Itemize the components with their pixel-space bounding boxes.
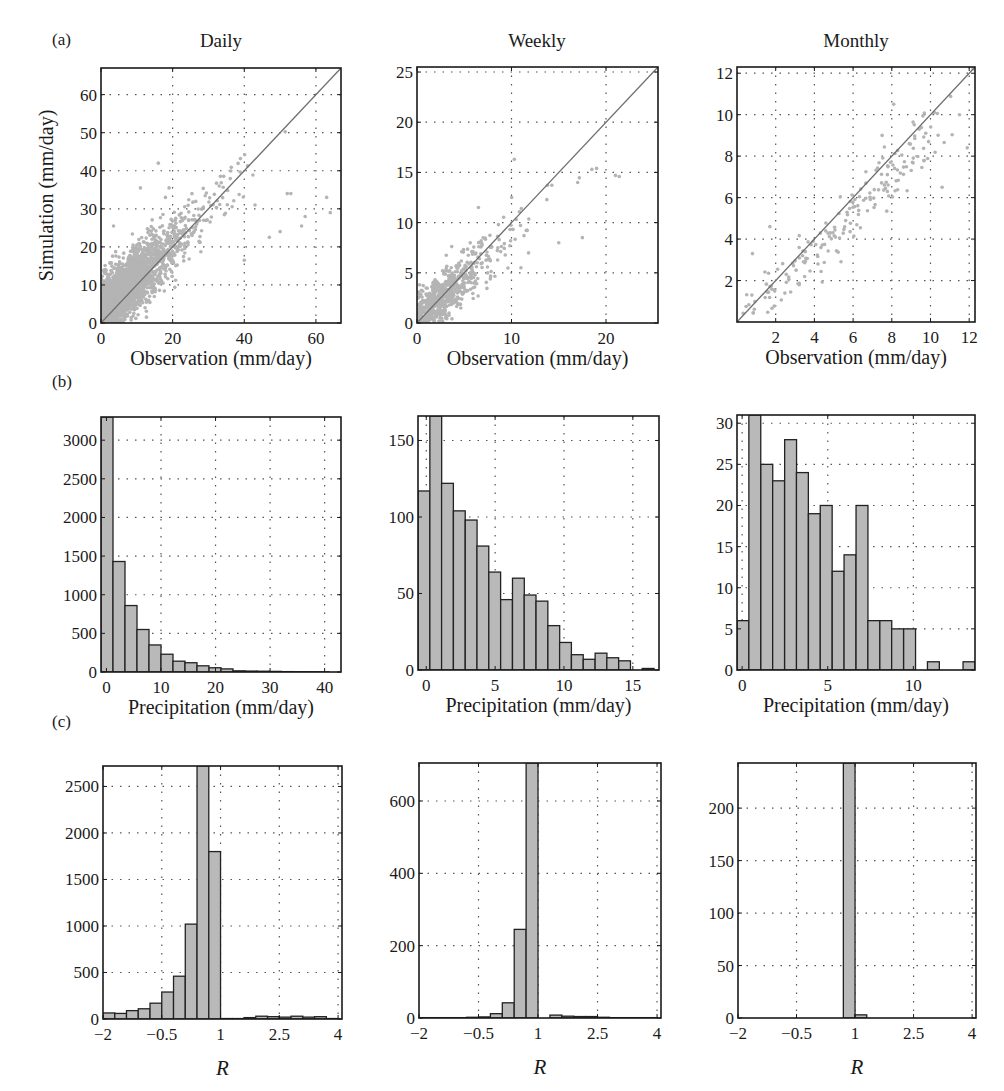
- x-axis-label: R: [533, 1055, 547, 1079]
- histogram-bar: [209, 852, 221, 1019]
- plot-content: [418, 416, 654, 670]
- x-tick-label: 10: [922, 328, 939, 347]
- x-tick-label: 2.5: [903, 1024, 924, 1043]
- x-tick-label: 40: [236, 329, 253, 348]
- plot-content: [103, 766, 338, 1019]
- y-tick-label: 15: [396, 163, 413, 182]
- y-tick-label: 1500: [63, 547, 97, 566]
- grid-lines: [103, 766, 342, 1019]
- y-tick-label: 25: [716, 455, 733, 474]
- histogram-bar: [125, 606, 137, 672]
- histogram-bar: [749, 415, 761, 670]
- histogram-bar: [927, 662, 939, 670]
- y-tick-label: 3000: [63, 431, 97, 450]
- histogram-bar: [904, 629, 916, 670]
- histogram-bar: [173, 661, 185, 672]
- y-tick-label: 20: [396, 113, 413, 132]
- y-tick-label: 15: [716, 538, 733, 557]
- histogram-bar: [832, 571, 844, 670]
- subplot-c-weekly: −2−0.512.540200400600R: [390, 763, 662, 1079]
- histogram-bar: [761, 464, 773, 670]
- one-to-one-line: [417, 67, 658, 323]
- x-tick-label: 20: [207, 678, 224, 697]
- histogram-bar: [162, 992, 174, 1019]
- axes-frame: [103, 766, 342, 1019]
- x-tick-label: −0.5: [781, 1024, 812, 1043]
- x-tick-label: 10: [153, 678, 170, 697]
- histogram-bar: [418, 491, 430, 670]
- y-tick-label: 0: [406, 661, 415, 680]
- histogram-bar: [571, 655, 583, 670]
- histogram-bar: [185, 663, 197, 672]
- y-tick-label: 200: [390, 937, 416, 956]
- y-tick-label: 60: [80, 86, 97, 105]
- x-tick-label: 4: [968, 1024, 977, 1043]
- x-axis-label: Precipitation (mm/day): [445, 694, 631, 717]
- x-tick-label: 2.5: [269, 1025, 290, 1044]
- subplot-c-daily: −2−0.512.5405001000150020002500R: [65, 766, 343, 1080]
- plot-content: [419, 763, 657, 1018]
- x-tick-label: 1: [534, 1024, 543, 1043]
- y-tick-label: 0: [91, 1010, 100, 1029]
- y-tick-label: 2500: [63, 470, 97, 489]
- y-tick-label: 10: [80, 276, 97, 295]
- histogram-bar: [808, 514, 820, 670]
- histogram-bar: [127, 1011, 139, 1019]
- x-tick-label: 60: [307, 329, 324, 348]
- x-tick-label: 5: [491, 676, 500, 695]
- histogram-bar: [185, 924, 197, 1019]
- grid-lines: [419, 763, 661, 1018]
- y-tick-label: 400: [390, 864, 416, 883]
- y-tick-label: 6: [725, 189, 734, 208]
- histogram-bar: [548, 626, 560, 670]
- histogram-bar: [820, 505, 832, 670]
- histogram-bar: [477, 546, 489, 670]
- y-tick-label: 10: [716, 106, 733, 125]
- plot-content: [99, 68, 341, 325]
- y-tick-label: 50: [397, 584, 414, 603]
- y-tick-label: 0: [725, 661, 734, 680]
- x-tick-label: 1: [851, 1024, 860, 1043]
- subplot-c-monthly: −2−0.512.54050100150200R: [709, 763, 977, 1079]
- y-tick-label: 200: [709, 799, 735, 818]
- plot-content: [737, 415, 975, 670]
- x-tick-label: 0: [422, 676, 431, 695]
- plots-canvas: 02040600102030405060Observation (mm/day)…: [0, 0, 1004, 1091]
- histogram-bar: [138, 1009, 150, 1019]
- y-tick-label: 50: [717, 957, 734, 976]
- y-axis-label: Simulation (mm/day): [35, 110, 58, 282]
- x-tick-label: 1: [216, 1025, 225, 1044]
- histogram-bar: [442, 483, 454, 670]
- y-tick-label: 10: [396, 214, 413, 233]
- x-tick-label: 0: [738, 676, 747, 695]
- y-tick-label: 30: [80, 200, 97, 219]
- histogram-bar: [843, 763, 855, 1018]
- histogram-bar: [785, 440, 797, 670]
- histogram-bar: [524, 595, 536, 670]
- x-tick-label: 10: [503, 329, 520, 348]
- plot-content: [415, 67, 658, 325]
- histogram-bar: [465, 520, 477, 670]
- x-axis-label: Observation (mm/day): [447, 347, 629, 370]
- y-tick-label: 5: [725, 620, 734, 639]
- histogram-bar: [526, 763, 538, 1018]
- histogram-bar: [115, 1013, 127, 1019]
- plot-content: [843, 763, 866, 1018]
- axes-frame: [738, 763, 976, 1018]
- x-tick-label: 40: [316, 678, 333, 697]
- x-tick-label: 8: [888, 328, 897, 347]
- x-tick-label: 10: [905, 676, 922, 695]
- y-tick-label: 5: [405, 264, 414, 283]
- subplot-b-weekly: 051015050100150Precipitation (mm/day): [389, 416, 660, 717]
- histogram-bar: [773, 481, 785, 670]
- plot-content: [737, 67, 975, 322]
- y-tick-label: 0: [89, 314, 98, 333]
- x-axis-label: Observation (mm/day): [130, 347, 312, 370]
- histogram-bar: [502, 1003, 514, 1018]
- x-tick-label: 10: [555, 676, 572, 695]
- y-tick-label: 0: [407, 1009, 416, 1028]
- x-tick-label: 0: [413, 329, 422, 348]
- y-tick-label: 150: [709, 852, 735, 871]
- x-tick-label: 20: [598, 329, 615, 348]
- y-tick-label: 100: [389, 508, 415, 527]
